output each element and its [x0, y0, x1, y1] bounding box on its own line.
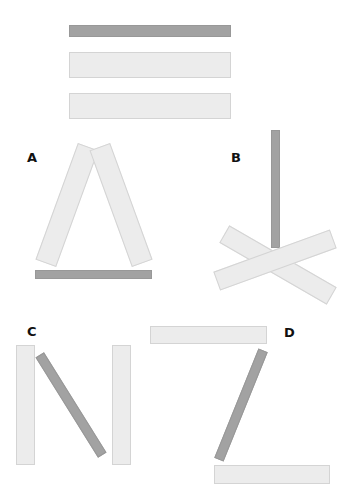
a-base-dark-stick: [35, 270, 152, 279]
d-top-stick: [150, 326, 267, 344]
b-vertical-dark-stick: [271, 130, 280, 248]
panel-label-d: D: [284, 326, 295, 339]
d-bottom-stick: [214, 465, 330, 484]
c-right-stick: [112, 345, 131, 465]
panel-label-a: A: [27, 151, 37, 164]
top-light-stick-2: [69, 93, 231, 119]
d-diagonal-dark-stick: [214, 348, 267, 461]
c-diagonal-dark-stick: [35, 352, 106, 457]
panel-label-c: C: [27, 325, 37, 338]
a-right-leg: [89, 143, 152, 267]
panel-label-b: B: [231, 151, 241, 164]
top-dark-stick: [69, 25, 231, 37]
c-left-stick: [16, 345, 35, 465]
top-light-stick-1: [69, 52, 231, 78]
a-left-leg: [35, 143, 98, 267]
